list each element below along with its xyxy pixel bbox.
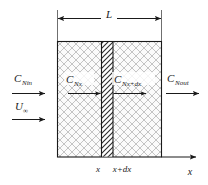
dimension-label-L-text: L <box>105 8 112 20</box>
axis-tick-label-x-plus-dx: x+dx <box>112 164 132 174</box>
inlet-concentration-symbol: C <box>14 72 22 84</box>
inlet-concentration-subscript: Nin <box>21 79 33 87</box>
inlet-velocity-subscript: ∞ <box>23 107 28 115</box>
inlet-velocity-label: U ∞ <box>15 100 28 115</box>
axis-tick-label-x: x <box>95 164 100 174</box>
outlet-concentration-subscript: Nout <box>174 79 190 87</box>
outlet-concentration-symbol: C <box>167 72 175 84</box>
flux-in-subscript: Nx <box>73 80 83 88</box>
inlet-concentration-label: C Nin <box>14 72 33 87</box>
control-volume-slice <box>102 42 114 157</box>
axis-label-x: x <box>187 166 193 177</box>
outlet-concentration-label: C Nout <box>167 72 190 87</box>
dimension-label-L: L <box>101 7 117 21</box>
figure-container: L C Nin U ∞ C Nx C Nx+dx C Nout <box>0 0 208 185</box>
flux-out-symbol: C <box>114 73 122 85</box>
flux-in-symbol: C <box>66 73 74 85</box>
schematic-diagram: L C Nin U ∞ C Nx C Nx+dx C Nout <box>0 0 208 185</box>
flux-out-subscript: Nx+dx <box>121 80 142 88</box>
